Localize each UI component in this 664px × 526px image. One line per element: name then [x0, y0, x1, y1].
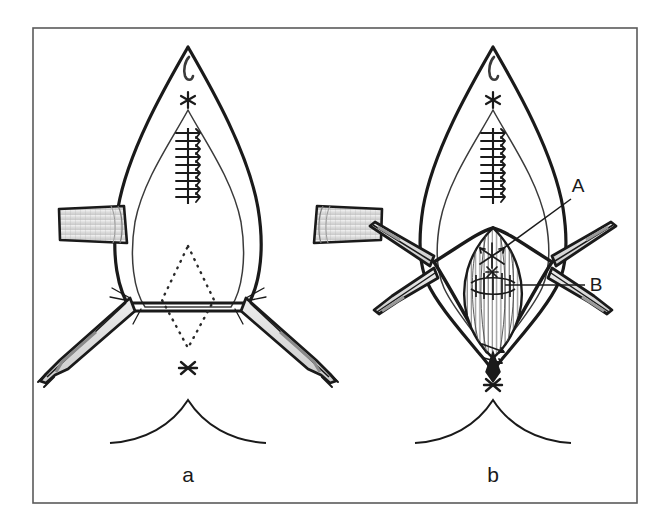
callout-a-label: A [572, 175, 585, 196]
retractor-band-left-a[interactable] [59, 206, 127, 243]
panel-caption-b: b [487, 463, 499, 486]
callout-b-label: B [590, 274, 603, 295]
figure-root: a [0, 0, 664, 526]
surgical-figure: a [0, 0, 664, 526]
panel-caption-a: a [182, 463, 194, 486]
